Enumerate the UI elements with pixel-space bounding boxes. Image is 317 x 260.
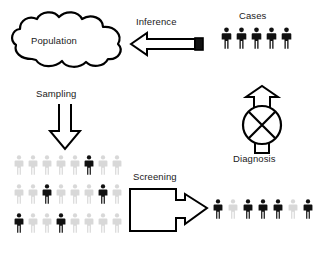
person-icon bbox=[27, 152, 39, 178]
person-figure bbox=[265, 26, 278, 50]
person-icon bbox=[97, 152, 109, 178]
person-figure bbox=[83, 152, 95, 178]
person-figure bbox=[97, 210, 109, 236]
person-icon bbox=[212, 196, 224, 222]
person-figure bbox=[69, 210, 81, 236]
sample-grid-people-group bbox=[13, 152, 123, 239]
screening-label: Screening bbox=[133, 172, 177, 182]
person-figure bbox=[220, 26, 233, 50]
sample-grid-row bbox=[13, 152, 123, 178]
inference-arrow bbox=[129, 30, 205, 58]
person-figure bbox=[287, 196, 299, 222]
person-figure bbox=[227, 196, 239, 222]
cases-people-group bbox=[220, 26, 293, 50]
person-icon bbox=[55, 210, 67, 236]
person-figure bbox=[55, 152, 67, 178]
person-figure bbox=[55, 210, 67, 236]
screened-people-group bbox=[212, 196, 317, 222]
sample-grid-row bbox=[13, 181, 123, 207]
person-icon bbox=[272, 196, 284, 222]
arrow-down-icon bbox=[48, 103, 82, 151]
cases-label: Cases bbox=[239, 11, 266, 21]
arrow-left-icon bbox=[129, 30, 205, 58]
diagnosis-symbol bbox=[233, 85, 291, 163]
person-icon bbox=[69, 181, 81, 207]
person-icon bbox=[27, 181, 39, 207]
person-icon bbox=[111, 152, 123, 178]
person-figure bbox=[97, 181, 109, 207]
person-icon bbox=[280, 26, 293, 50]
person-icon bbox=[83, 181, 95, 207]
person-icon bbox=[41, 210, 53, 236]
person-figure bbox=[97, 152, 109, 178]
person-icon bbox=[242, 196, 254, 222]
person-icon bbox=[41, 181, 53, 207]
person-icon bbox=[111, 181, 123, 207]
person-icon bbox=[287, 196, 299, 222]
screening-arrow bbox=[128, 186, 210, 234]
diagnosis-label: Diagnosis bbox=[233, 154, 276, 164]
inference-label: Inference bbox=[136, 17, 177, 27]
person-figure bbox=[242, 196, 254, 222]
person-icon bbox=[265, 26, 278, 50]
person-figure bbox=[250, 26, 263, 50]
person-icon bbox=[27, 210, 39, 236]
person-icon bbox=[220, 26, 233, 50]
person-icon bbox=[13, 210, 25, 236]
person-icon bbox=[97, 210, 109, 236]
person-figure bbox=[272, 196, 284, 222]
person-icon bbox=[97, 181, 109, 207]
person-icon bbox=[13, 152, 25, 178]
diagram-canvas: Population Inference Cases Sampling Diag… bbox=[0, 0, 317, 260]
person-figure bbox=[69, 181, 81, 207]
person-figure bbox=[257, 196, 269, 222]
person-icon bbox=[302, 196, 314, 222]
person-icon bbox=[69, 152, 81, 178]
person-figure bbox=[41, 210, 53, 236]
person-figure bbox=[13, 210, 25, 236]
person-figure bbox=[111, 181, 123, 207]
person-icon bbox=[235, 26, 248, 50]
sampling-arrow bbox=[48, 103, 82, 151]
sampling-label: Sampling bbox=[36, 89, 76, 99]
person-figure bbox=[13, 152, 25, 178]
person-icon bbox=[13, 181, 25, 207]
person-figure bbox=[235, 26, 248, 50]
diagnosis-circle-x-icon bbox=[233, 85, 291, 163]
person-icon bbox=[55, 181, 67, 207]
person-figure bbox=[55, 181, 67, 207]
person-figure bbox=[41, 152, 53, 178]
person-figure bbox=[13, 181, 25, 207]
person-figure bbox=[212, 196, 224, 222]
person-figure bbox=[69, 152, 81, 178]
person-figure bbox=[27, 181, 39, 207]
person-icon bbox=[69, 210, 81, 236]
person-icon bbox=[111, 210, 123, 236]
person-icon bbox=[41, 152, 53, 178]
population-label: Population bbox=[31, 36, 77, 46]
person-figure bbox=[83, 210, 95, 236]
person-icon bbox=[227, 196, 239, 222]
box-arrow-right-icon bbox=[128, 186, 210, 234]
person-figure bbox=[302, 196, 314, 222]
sample-grid-row bbox=[13, 210, 123, 236]
person-icon bbox=[55, 152, 67, 178]
person-figure bbox=[280, 26, 293, 50]
person-figure bbox=[111, 152, 123, 178]
person-figure bbox=[27, 210, 39, 236]
person-figure bbox=[111, 210, 123, 236]
person-icon bbox=[250, 26, 263, 50]
person-icon bbox=[83, 210, 95, 236]
person-figure bbox=[83, 181, 95, 207]
person-icon bbox=[83, 152, 95, 178]
person-figure bbox=[27, 152, 39, 178]
person-icon bbox=[257, 196, 269, 222]
person-figure bbox=[41, 181, 53, 207]
